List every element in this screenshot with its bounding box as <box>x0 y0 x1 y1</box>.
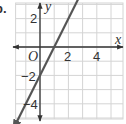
y-tick-label-neg4: −4 <box>23 98 38 111</box>
x-axis-label: x <box>115 33 121 47</box>
y-axis-label: y <box>45 0 51 14</box>
origin-label: O <box>28 50 38 64</box>
x-tick-label-2: 2 <box>64 50 71 63</box>
coordinate-plane <box>0 0 126 124</box>
y-tick-label-2: 2 <box>30 12 37 25</box>
x-tick-label-4: 4 <box>93 50 100 63</box>
y-tick-label-neg2: −2 <box>21 70 36 83</box>
